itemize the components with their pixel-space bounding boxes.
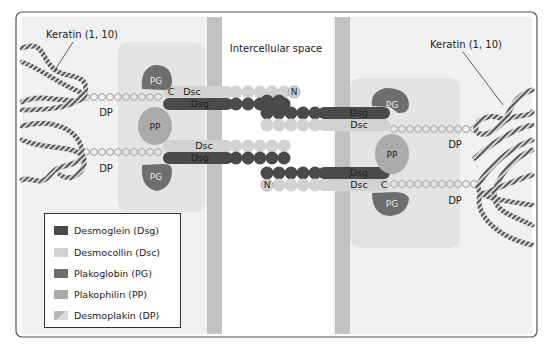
legend-item-dsc: Desmocollin (Dsc) xyxy=(54,245,160,259)
legend-label: Desmoglein (Dsg) xyxy=(74,225,159,236)
right-dsc-top xyxy=(261,119,391,132)
label-pg-left-bottom: PG xyxy=(150,172,162,182)
right-dsg-bottom xyxy=(261,167,391,180)
legend-swatch-dp xyxy=(54,311,68,320)
legend-swatch-dsg xyxy=(54,226,68,235)
left-dsc-bottom xyxy=(163,140,291,153)
label-n-right: N xyxy=(264,180,271,190)
label-pg-left-top: PG xyxy=(150,76,162,86)
label-keratin-left: Keratin (1, 10) xyxy=(46,29,118,40)
legend: Desmoglein (Dsg) Desmocollin (Dsc) Plako… xyxy=(44,213,181,328)
label-dp-right-top: DP xyxy=(448,139,462,150)
label-c-right: C xyxy=(381,179,388,190)
label-pp-right: PP xyxy=(387,150,398,160)
label-dsc-right-top: Dsc xyxy=(350,119,368,130)
legend-swatch-pg xyxy=(54,269,68,278)
legend-label: Desmoplakin (DP) xyxy=(74,310,159,321)
label-dsg-left-bottom: Dsg xyxy=(191,152,209,163)
legend-swatch-dsc xyxy=(54,248,68,257)
label-keratin-right: Keratin (1, 10) xyxy=(430,39,502,50)
label-dsc-right-bottom: Dsc xyxy=(350,179,368,190)
label-dsc-left-bottom: Dsc xyxy=(195,140,213,151)
label-pp-left: PP xyxy=(150,122,161,132)
label-dsc-left-top: Dsc xyxy=(183,86,201,97)
label-dsg-right-top: Dsg xyxy=(350,107,368,118)
legend-label: Plakoglobin (PG) xyxy=(74,268,152,279)
legend-item-pp: Plakophilin (PP) xyxy=(54,287,147,301)
right-dsc-bottom xyxy=(261,179,390,192)
label-dp-left-bottom: DP xyxy=(99,163,113,174)
label-dsg-left-top: Dsg xyxy=(191,98,209,109)
left-membrane xyxy=(207,17,222,334)
left-dsg-bottom xyxy=(163,152,291,165)
legend-item-dp: Desmoplakin (DP) xyxy=(54,308,159,322)
legend-item-pg: Plakoglobin (PG) xyxy=(54,266,152,280)
legend-swatch-pp xyxy=(54,290,68,299)
intercellular-space-label: Intercellular space xyxy=(230,43,322,54)
label-n-left: N xyxy=(291,87,298,97)
legend-label: Plakophilin (PP) xyxy=(74,289,147,300)
label-pg-right-bottom: PG xyxy=(386,199,398,209)
label-dp-left-top: DP xyxy=(99,107,113,118)
label-pg-right-top: PG xyxy=(386,100,398,110)
legend-item-dsg: Desmoglein (Dsg) xyxy=(54,223,159,237)
label-dp-right-bottom: DP xyxy=(448,195,462,206)
legend-label: Desmocollin (Dsc) xyxy=(74,247,160,258)
label-dsg-right-bottom: Dsg xyxy=(350,167,368,178)
desmosome-diagram: Intercellular space xyxy=(0,0,555,353)
